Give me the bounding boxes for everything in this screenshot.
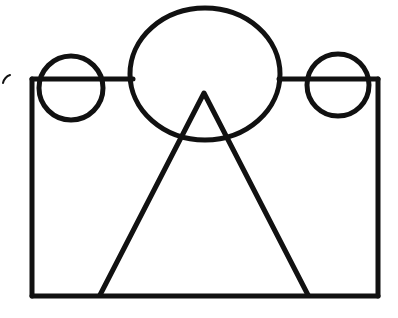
drawing-canvas bbox=[0, 0, 398, 318]
canvas-background bbox=[0, 0, 398, 318]
line-drawing-figure bbox=[0, 0, 398, 318]
